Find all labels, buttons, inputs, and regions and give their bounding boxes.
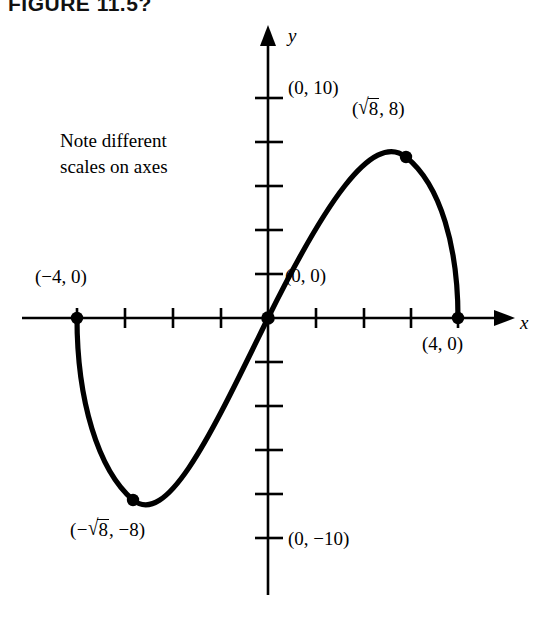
point-origin [261, 311, 275, 325]
label-maximum-rest: , 8) [379, 98, 404, 119]
point-right-intercept [452, 312, 464, 324]
radical-sign-icon: √ [358, 93, 368, 122]
label-minimum-radicand: 8 [97, 519, 109, 540]
note-line-1: Note different [60, 128, 168, 154]
point-maximum [400, 151, 412, 163]
label-minimum-open: (− [70, 519, 88, 540]
label-maximum: (√8, 8) [352, 97, 405, 121]
label-right-intercept: (4, 0) [422, 332, 463, 356]
label-y-top: (0, 10) [288, 76, 339, 100]
y-axis-label: y [288, 24, 296, 48]
label-minimum: (−√8, −8) [70, 518, 145, 542]
figure-container: FIGURE 11.5? [0, 0, 547, 620]
label-minimum-rest: , −8) [109, 519, 145, 540]
x-axis-label: x [520, 311, 528, 335]
label-origin: (0, 0) [285, 264, 326, 288]
point-left-intercept [71, 312, 83, 324]
note-line-2: scales on axes [60, 154, 168, 180]
label-maximum-radicand: 8 [368, 98, 380, 119]
radical-sign-icon: √ [88, 514, 98, 543]
label-left-intercept: (−4, 0) [35, 265, 87, 289]
label-y-bottom: (0, −10) [288, 527, 349, 551]
point-minimum [127, 494, 139, 506]
note-text: Note different scales on axes [60, 128, 168, 179]
